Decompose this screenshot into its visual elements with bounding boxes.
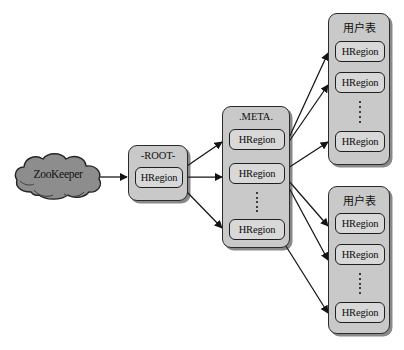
edge-root-to-meta-region-1 — [187, 142, 222, 166]
user-table-2-ellipsis — [358, 273, 361, 294]
root-table-caption: -ROOT- — [129, 150, 187, 161]
edge-meta2-to-userB-region-1 — [288, 180, 328, 226]
meta-table-region-1[interactable]: HRegion — [229, 129, 285, 150]
meta-table-region-2[interactable]: HRegion — [229, 163, 285, 184]
user-table-1-caption: 用户表 — [329, 19, 389, 35]
user-table-2-box[interactable]: 用户表 HRegion HRegion HRegion — [328, 186, 390, 334]
edge-meta1-to-userA-region-2 — [288, 85, 328, 143]
user-table-1-box[interactable]: 用户表 HRegion HRegion HRegion — [328, 13, 390, 165]
edge-meta3-to-userB-region-3 — [284, 243, 328, 313]
diagram-canvas: ZooKeeper -ROOT- HRegion .META. HRegion … — [0, 0, 404, 350]
meta-table-ellipsis — [255, 192, 258, 212]
user-table-1-region-2[interactable]: HRegion — [335, 72, 385, 93]
edge-meta2-to-userB-region-2 — [288, 186, 328, 260]
user-table-2-region-1[interactable]: HRegion — [335, 213, 385, 234]
user-table-2-region-2[interactable]: HRegion — [335, 244, 385, 265]
edge-meta1-to-userA-region-1 — [288, 53, 328, 140]
meta-table-region-3[interactable]: HRegion — [229, 219, 285, 240]
user-table-1-region-3[interactable]: HRegion — [335, 131, 385, 152]
edge-root-to-meta-region-3 — [187, 192, 222, 228]
meta-table-box[interactable]: .META. HRegion HRegion HRegion — [222, 106, 290, 248]
user-table-1-ellipsis — [358, 101, 361, 123]
user-table-2-region-3[interactable]: HRegion — [335, 302, 385, 323]
root-table-region-1[interactable]: HRegion — [135, 167, 183, 188]
zookeeper-node: ZooKeeper — [12, 152, 104, 202]
meta-table-caption: .META. — [223, 111, 289, 122]
root-table-box[interactable]: -ROOT- HRegion — [128, 145, 188, 201]
user-table-2-caption: 用户表 — [329, 192, 389, 208]
user-table-1-region-1[interactable]: HRegion — [335, 41, 385, 62]
zookeeper-label: ZooKeeper — [12, 168, 104, 180]
edge-meta2-to-userA-region-3 — [288, 142, 328, 168]
